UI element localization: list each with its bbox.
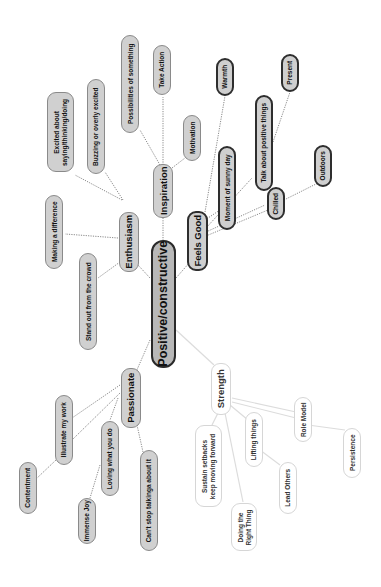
branch-strength[interactable]: Strength (211, 363, 231, 415)
node-warmth[interactable]: Warmth (216, 58, 234, 96)
node-stand-out-from-the-crowd[interactable]: Stand out from the crowd (79, 253, 97, 350)
branch-passionate[interactable]: Passionate (121, 368, 141, 428)
branch-label: Enthusiasm (125, 215, 133, 269)
root-node[interactable]: Positive/constructive (151, 240, 176, 368)
node-doing-the-right-thing[interactable]: Doing the Right Thing (231, 503, 257, 551)
node-moment-of-sunny-day[interactable]: Moment of sunny day (218, 146, 236, 230)
node-excited-about-saying-thinking-doing[interactable]: Excited about saying/thinking/doing (47, 92, 74, 172)
branch-label: Feels Good (194, 215, 202, 267)
root-label: Positive/constructive (160, 241, 168, 367)
node-immense-joy[interactable]: Immense Joy (78, 498, 96, 544)
node-possibilities-of-something[interactable]: Possibilities of something (121, 35, 139, 133)
node-outdoors[interactable]: Outdoors (314, 145, 332, 187)
node-talk-about-positive-things[interactable]: Talk about positive things (255, 95, 273, 191)
branch-feels-good[interactable]: Feels Good (187, 211, 208, 271)
connector-lines (0, 0, 381, 587)
branch-inspiration[interactable]: Inspiration (153, 164, 173, 218)
node-chilled[interactable]: Chilled (267, 187, 285, 220)
node-persistence[interactable]: Persistence (343, 428, 361, 478)
branch-label: Passionate (127, 373, 135, 423)
branch-enthusiasm[interactable]: Enthusiasm (119, 212, 139, 272)
node-lead-others[interactable]: Lead Others (279, 462, 297, 514)
node-motivation[interactable]: Motivation (183, 115, 201, 161)
node-take-action[interactable]: Take Action (153, 45, 171, 95)
node-making-a-difference[interactable]: Making a difference (45, 195, 63, 269)
node-lifting-things[interactable]: Lifting things (245, 412, 263, 467)
node-role-model[interactable]: Role Model (294, 397, 312, 442)
node-contentment[interactable]: Contentment (19, 462, 37, 514)
node-sustain-setbacks-keep-moving-forward[interactable]: Sustain setbacks keep moving forward (195, 425, 222, 507)
branch-label: Strength (217, 369, 225, 408)
branch-label: Inspiration (159, 167, 167, 216)
node-illustrate-my-work[interactable]: Illustrate my work (55, 395, 73, 465)
node-loving-what-you-do[interactable]: Loving what you do (101, 421, 119, 496)
node-present[interactable]: Present (281, 54, 299, 92)
mind-map-canvas: Positive/constructive Feels Good Warmth … (0, 0, 381, 587)
node-buzzing-or-overly-excited[interactable]: Buzzing or overly excited (87, 79, 105, 174)
node-cant-stop-talking-about-it[interactable]: Can't stop talkinga about it (140, 450, 158, 551)
